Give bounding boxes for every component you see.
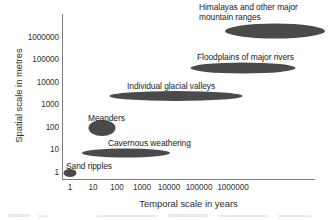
data-ellipse-cavernous-weathering (82, 149, 170, 158)
data-label-floodplains: Floodplains of major rivers (197, 52, 294, 62)
scatter-chart-figure: 1000000 100000 10000 1000 100 10 1 1 10 … (0, 0, 334, 220)
data-label-sand-ripples: Sand ripples (66, 161, 112, 171)
data-label-himalayas: Himalayas and other major mountain range… (199, 2, 329, 22)
data-label-meanders: Meanders (88, 113, 125, 123)
scan-artifact (168, 214, 208, 217)
data-ellipse-glacial-valleys (110, 91, 243, 101)
scan-artifact (278, 215, 312, 217)
scan-artifact (96, 215, 158, 217)
plot-area: Himalayas and other major mountain range… (0, 0, 334, 220)
data-ellipse-floodplains (191, 63, 296, 74)
scan-artifact (8, 214, 30, 217)
data-label-glacial-valleys: Individual glacial valleys (127, 81, 215, 91)
scan-artifact (38, 215, 48, 217)
data-label-cavernous-weathering: Cavernous weathering (108, 138, 191, 148)
data-ellipse-himalayas (225, 24, 325, 39)
scan-artifact (218, 215, 268, 217)
